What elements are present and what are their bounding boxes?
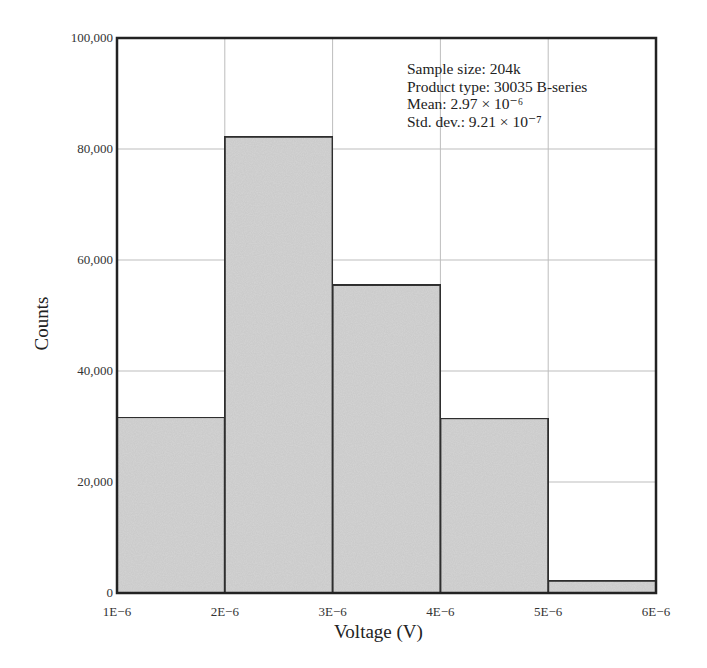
x-tick-label: 6E−6 xyxy=(642,604,671,619)
bars xyxy=(117,137,656,593)
annotation-product-type: Product type: 30035 B-series xyxy=(407,78,587,96)
annotation-sample-size: Sample size: 204k xyxy=(407,60,587,78)
x-tick-label: 4E−6 xyxy=(426,604,455,619)
histogram-bar xyxy=(225,137,333,593)
histogram-bar xyxy=(117,417,225,593)
x-axis-label: Voltage (V) xyxy=(334,621,423,643)
y-tick-label: 0 xyxy=(107,585,114,600)
histogram-bar xyxy=(440,418,548,593)
x-tick-label: 5E−6 xyxy=(534,604,563,619)
y-tick-label: 20,000 xyxy=(77,474,113,489)
y-axis-ticks: 020,00040,00060,00080,000100,000 xyxy=(71,30,113,600)
y-tick-label: 100,000 xyxy=(71,30,113,45)
histogram-chart: 020,00040,00060,00080,000100,000 1E−62E−… xyxy=(0,0,707,668)
y-tick-label: 40,000 xyxy=(77,363,113,378)
x-tick-label: 2E−6 xyxy=(211,604,240,619)
annotation-mean: Mean: 2.97 × 10⁻⁶ xyxy=(407,95,587,113)
stats-annotation: Sample size: 204k Product type: 30035 B-… xyxy=(407,60,587,130)
x-axis-ticks: 1E−62E−63E−64E−65E−66E−6 xyxy=(103,604,671,619)
y-axis-label: Counts xyxy=(31,297,52,351)
annotation-std-dev: Std. dev.: 9.21 × 10⁻⁷ xyxy=(407,113,587,131)
y-tick-label: 80,000 xyxy=(77,141,113,156)
x-tick-label: 3E−6 xyxy=(318,604,347,619)
y-tick-label: 60,000 xyxy=(77,252,113,267)
histogram-bar xyxy=(548,581,656,593)
x-tick-label: 1E−6 xyxy=(103,604,132,619)
histogram-bar xyxy=(333,285,441,593)
